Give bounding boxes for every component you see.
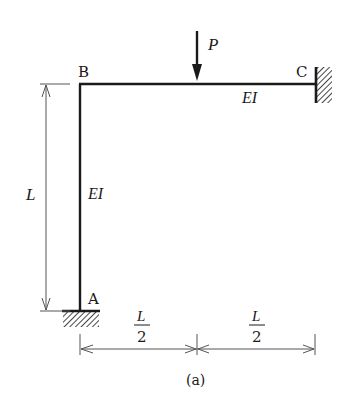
left-span-numerator: L [136, 308, 145, 324]
column-stiffness-label: EI [87, 185, 104, 202]
node-label-a: A [87, 290, 99, 308]
right-span-denominator: 2 [252, 328, 262, 346]
height-dimension [40, 84, 70, 311]
figure-caption: (a) [186, 372, 205, 388]
fixed-support-a [62, 311, 100, 327]
left-span-denominator: 2 [137, 328, 147, 346]
frame-diagram: B C A P EI EI L L 2 L 2 (a) [0, 0, 359, 411]
height-label: L [25, 185, 35, 204]
fixed-support-c [316, 67, 332, 103]
beam-stiffness-label: EI [241, 89, 258, 106]
node-label-b: B [78, 63, 89, 81]
span-dimension [80, 334, 315, 355]
load-arrow-icon [192, 31, 202, 81]
load-label: P [207, 35, 218, 54]
right-span-numerator: L [251, 308, 260, 324]
node-label-c: C [296, 63, 307, 81]
